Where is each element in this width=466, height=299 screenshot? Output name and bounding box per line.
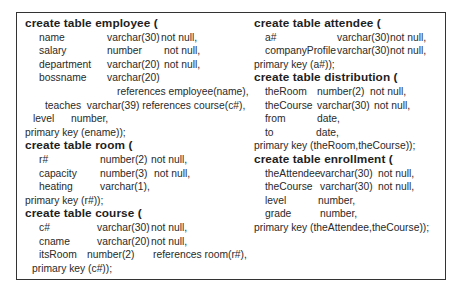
column-constraint: not null, — [164, 44, 200, 58]
right-column: create table attendee ( a# varchar(30) n… — [254, 17, 444, 235]
column-name: bossname — [39, 71, 87, 85]
distribution-table-header: create table distribution ( — [254, 71, 444, 85]
enrollment-row-level: level number, — [254, 194, 444, 208]
column-type: number, — [71, 112, 108, 126]
employee-row-department: department varchar(20) not null, — [25, 58, 240, 72]
employee-primary-key: primary key (ename)); — [25, 126, 240, 140]
column-constraint: not null, — [164, 58, 200, 72]
attendee-row-companyprofile: companyProfile varchar(30) not null, — [254, 44, 444, 58]
sql-schema-box: create table employee ( name varchar(30)… — [16, 12, 446, 280]
employee-row-teaches: teaches varchar(39) references course(c#… — [25, 99, 240, 113]
column-type: varchar(20) — [107, 71, 160, 85]
column-type: number — [107, 44, 142, 58]
attendee-row-a: a# varchar(30) not null, — [254, 31, 444, 45]
column-type: varchar(30) — [107, 31, 160, 45]
column-name: salary — [39, 44, 66, 58]
room-row-heating: heating varchar(1), — [25, 180, 240, 194]
course-row-cname: cname varchar(20) not null, — [25, 235, 240, 249]
course-row-c: c# varchar(30) not null, — [25, 221, 240, 235]
employee-row-level: level number, — [25, 112, 240, 126]
room-row-capacity: capacity number(3) not null, — [25, 167, 240, 181]
room-primary-key: primary key (r#)); — [25, 194, 240, 208]
distribution-primary-key: primary key (theRoom,theCourse)); — [254, 139, 444, 153]
employee-row-bossname: bossname varchar(20) — [25, 71, 240, 85]
enrollment-table-header: create table enrollment ( — [254, 153, 444, 167]
distribution-row-to: to date, — [254, 126, 444, 140]
distribution-row-from: from date, — [254, 112, 444, 126]
course-row-itsroom: itsRoom number(2) references room(r#), — [25, 248, 240, 262]
employee-row-name: name varchar(30) not null, — [25, 31, 240, 45]
enrollment-row-grade: grade number, — [254, 207, 444, 221]
attendee-primary-key: primary key (a#)); — [254, 58, 444, 72]
room-table-header: create table room ( — [25, 139, 240, 153]
column-name: level — [33, 112, 54, 126]
distribution-row-theroom: theRoom number(2) not null, — [254, 85, 444, 99]
column-constraint: not null, — [161, 31, 197, 45]
column-name: name — [39, 31, 65, 45]
enrollment-row-thecourse: theCourse varchar(30) not null, — [254, 180, 444, 194]
course-table-header: create table course ( — [25, 207, 240, 221]
employee-table-header: create table employee ( — [25, 17, 240, 31]
distribution-row-thecourse: theCourse varchar(30) not null, — [254, 99, 444, 113]
enrollment-row-theattendee: theAttendee varchar(30) not null, — [254, 167, 444, 181]
enrollment-primary-key: primary key (theAttendee,theCourse)); — [254, 221, 444, 235]
attendee-table-header: create table attendee ( — [254, 17, 444, 31]
column-type: varchar(20) — [107, 58, 160, 72]
course-primary-key: primary key (c#)); — [25, 262, 240, 276]
left-column: create table employee ( name varchar(30)… — [25, 17, 240, 275]
column-name: department — [39, 58, 91, 72]
employee-references: references employee(name), — [25, 85, 240, 99]
employee-row-salary: salary number not null, — [25, 44, 240, 58]
room-row-r: r# number(2) not null, — [25, 153, 240, 167]
